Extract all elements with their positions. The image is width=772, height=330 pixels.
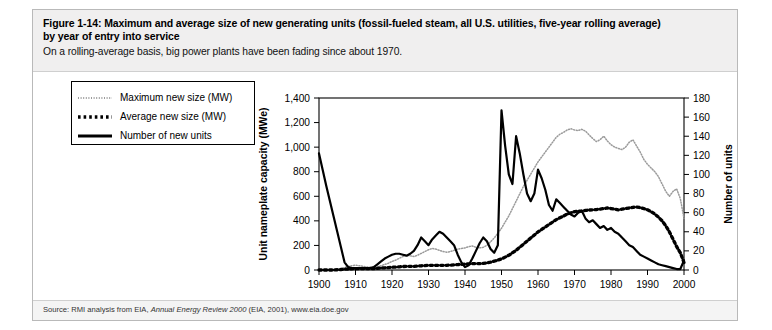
x-axis-tick-label: 1950 (490, 279, 513, 290)
y2-axis-tick-label: 0 (693, 265, 699, 276)
figure-container: Figure 1-14: Maximum and average size of… (32, 9, 738, 321)
line-chart: 02004006008001,0001,2001,400020406080100… (33, 72, 739, 302)
x-axis-tick-label: 2000 (673, 279, 696, 290)
y-axis-tick-label: 1,400 (285, 93, 311, 104)
y-axis-tick-label: 0 (304, 265, 310, 276)
x-axis-tick-label: 1980 (600, 279, 623, 290)
source-suffix: (EIA, 2001), www.eia.doe.gov (246, 305, 348, 314)
series-line-1 (319, 207, 684, 270)
figure-header: Figure 1-14: Maximum and average size of… (33, 10, 737, 72)
figure-source: Source: RMI analysis from EIA, Annual En… (33, 300, 737, 320)
x-axis-tick-label: 1910 (344, 279, 367, 290)
y2-axis-title: Number of units (723, 144, 734, 224)
figure-subtitle: On a rolling-average basis, big power pl… (43, 45, 727, 58)
y-axis-tick-label: 200 (293, 240, 310, 251)
figure-title-line-2: by year of entry into service (43, 30, 727, 43)
y-axis-tick-label: 1,000 (285, 142, 311, 153)
y2-axis-tick-label: 140 (693, 131, 710, 142)
y-axis-title: Unit nameplate capacity (MWe) (258, 108, 269, 261)
y2-axis-tick-label: 160 (693, 112, 710, 123)
x-axis-tick-label: 1970 (563, 279, 586, 290)
y-axis-tick-label: 800 (293, 166, 310, 177)
y2-axis-tick-label: 60 (693, 207, 705, 218)
y2-axis-tick-label: 80 (693, 188, 705, 199)
y2-axis-tick-label: 40 (693, 226, 705, 237)
x-axis-tick-label: 1990 (636, 279, 659, 290)
y2-axis-tick-label: 20 (693, 245, 705, 256)
chart-plot-area: 02004006008001,0001,2001,400020406080100… (33, 72, 737, 302)
source-prefix: Source: RMI analysis from EIA, (43, 305, 151, 314)
x-axis-tick-label: 1940 (454, 279, 477, 290)
y-axis-tick-label: 1,200 (285, 117, 311, 128)
series-line-2 (319, 110, 684, 269)
y-axis-tick-label: 400 (293, 215, 310, 226)
x-axis-tick-label: 1900 (308, 279, 331, 290)
y2-axis-tick-label: 120 (693, 150, 710, 161)
figure-title-line-1: Figure 1-14: Maximum and average size of… (43, 17, 727, 30)
y2-axis-tick-label: 180 (693, 93, 710, 104)
source-title: Annual Energy Review 2000 (151, 305, 247, 314)
x-axis-tick-label: 1960 (527, 279, 550, 290)
x-axis-tick-label: 1920 (381, 279, 404, 290)
y-axis-tick-label: 600 (293, 191, 310, 202)
y2-axis-tick-label: 100 (693, 169, 710, 180)
figure-page: Figure 1-14: Maximum and average size of… (0, 0, 772, 330)
x-axis-tick-label: 1930 (417, 279, 440, 290)
